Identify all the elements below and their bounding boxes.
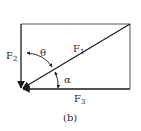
alpha-angle-arc [55,72,58,88]
label-alpha: α [64,74,71,85]
label-theta: θ [40,47,46,58]
figure-caption: (b) [63,112,77,123]
label-f2: F2 [6,50,17,63]
label-f3: F3 [74,93,85,106]
force-diagram: F2 θ F1 α F3 (b) [0,0,141,131]
